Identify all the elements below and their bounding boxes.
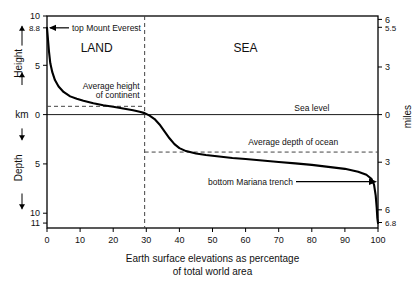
miles-axis-title: miles (402, 105, 413, 128)
y-tick-label-right: 6.8 (385, 219, 397, 228)
caption-line-1: Earth surface elevations as percentage (126, 253, 300, 264)
y-tick-label-left: 0 (35, 110, 40, 120)
axis-direction-arrow-head (19, 204, 25, 209)
y-tick-label-right: 6 (385, 205, 390, 215)
x-tick-label: 60 (241, 235, 251, 245)
x-tick-label: 40 (174, 235, 184, 245)
axis-direction-arrow-head (19, 26, 25, 31)
x-tick-label: 30 (141, 235, 151, 245)
x-tick-label: 0 (44, 235, 49, 245)
y-tick-label-right: 3 (385, 157, 390, 167)
mariana-label: bottom Mariana trench (208, 177, 293, 187)
sea-region-label: SEA (234, 41, 258, 55)
land-region-label: LAND (81, 41, 113, 55)
y-tick-label-left: 10 (30, 11, 40, 21)
depth-axis-title: Depth (13, 155, 24, 182)
everest-label: top Mount Everest (72, 23, 142, 33)
x-tick-label: 80 (307, 235, 317, 245)
axis-direction-arrow-head (19, 135, 25, 140)
x-tick-label: 10 (75, 235, 85, 245)
caption-line-2: of total world area (173, 266, 253, 277)
sea-level-label: Sea level (294, 103, 329, 113)
km-unit-label: km (15, 109, 28, 120)
x-tick-label: 90 (340, 235, 350, 245)
y-tick-label-right: 3 (385, 62, 390, 72)
avg-continent-height-label-line2: of continent (96, 90, 141, 100)
y-tick-label-left: 5 (35, 61, 40, 71)
hypsographic-curve-chart: 0102030405060708090100108.8505101165.530… (0, 0, 420, 285)
y-tick-label-left: 11 (31, 218, 40, 228)
x-tick-label: 100 (370, 235, 385, 245)
x-tick-label: 50 (207, 235, 217, 245)
x-tick-label: 70 (274, 235, 284, 245)
y-tick-label-left: 10 (30, 208, 40, 218)
chart-container: 0102030405060708090100108.8505101165.530… (0, 0, 420, 285)
y-tick-label-right: 5.5 (385, 24, 397, 33)
y-tick-label-left: 5 (35, 159, 40, 169)
avg-ocean-depth-label: Average depth of ocean (248, 137, 338, 147)
y-tick-label-right: 0 (385, 110, 390, 120)
x-tick-label: 20 (108, 235, 118, 245)
y-tick-label-left: 8.8 (29, 24, 41, 33)
